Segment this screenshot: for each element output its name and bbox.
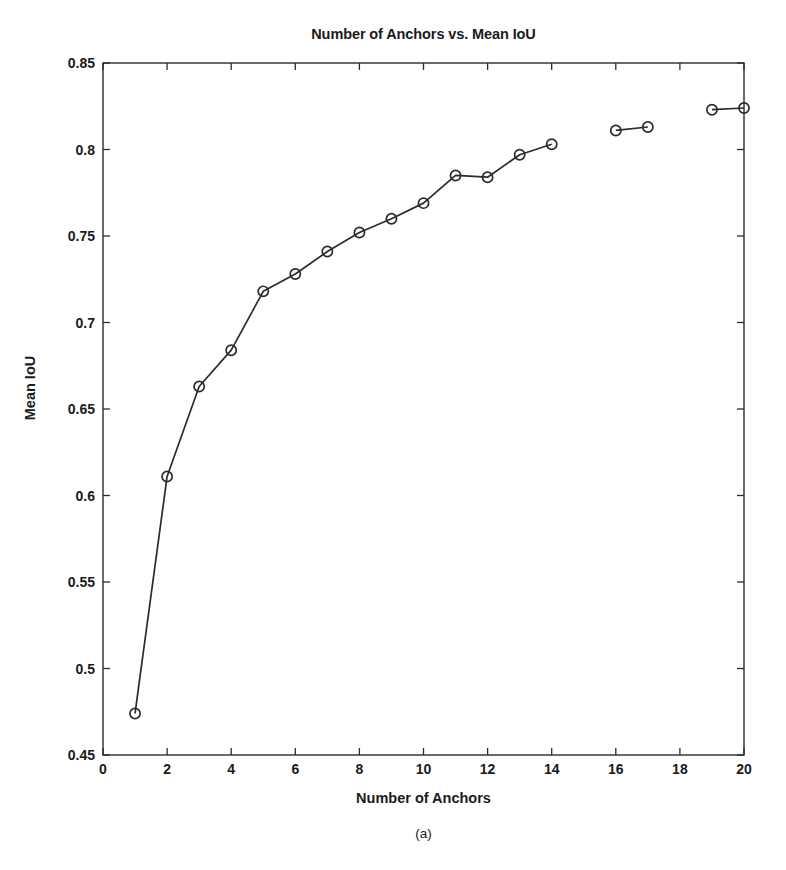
figure-container: Number of Anchors vs. Mean IoU Mean IoU … (0, 0, 786, 870)
plot-area (0, 0, 786, 870)
axes-frame (103, 63, 744, 755)
